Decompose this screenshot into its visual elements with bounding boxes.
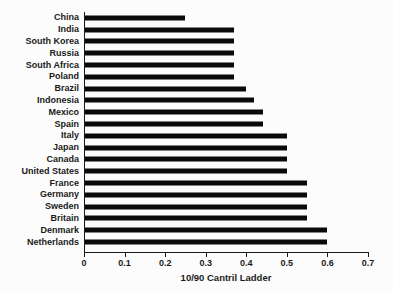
bar-row: South Korea	[0, 36, 368, 48]
category-label: Sweden	[0, 202, 84, 211]
bar-row: France	[0, 177, 368, 189]
bar-track	[84, 201, 368, 213]
x-tick-label: 0.6	[321, 258, 334, 268]
x-axis-title: 10/90 Cantril Ladder	[84, 272, 368, 283]
bar	[84, 110, 263, 115]
category-label: Spain	[0, 120, 84, 129]
bar-track	[84, 24, 368, 36]
category-label: Japan	[0, 143, 84, 152]
category-label: India	[0, 25, 84, 34]
bar-row: United States	[0, 165, 368, 177]
bar-track	[84, 59, 368, 71]
bar-row: Mexico	[0, 106, 368, 118]
bar-track	[84, 213, 368, 225]
bar	[84, 51, 234, 56]
bar-row: India	[0, 24, 368, 36]
bar	[84, 74, 234, 79]
bar-row: South Africa	[0, 59, 368, 71]
bar-row: Netherlands	[0, 236, 368, 248]
x-tick-label: 0.2	[159, 258, 172, 268]
bar-track	[84, 177, 368, 189]
bar-track	[84, 36, 368, 48]
bar	[84, 228, 327, 233]
bar	[84, 181, 307, 186]
bar-row: Poland	[0, 71, 368, 83]
bar-row: Indonesia	[0, 95, 368, 107]
bar-row: Brazil	[0, 83, 368, 95]
bar-track	[84, 224, 368, 236]
bar	[84, 169, 287, 174]
x-tick-mark	[327, 253, 328, 257]
category-label: South Africa	[0, 61, 84, 70]
bar-row: Spain	[0, 118, 368, 130]
category-label: Netherlands	[0, 238, 84, 247]
bar	[84, 204, 307, 209]
bar	[84, 192, 307, 197]
y-axis-line	[84, 12, 85, 252]
bar-track	[84, 71, 368, 83]
bar	[84, 122, 263, 127]
bar-track	[84, 83, 368, 95]
x-tick-label: 0.4	[240, 258, 253, 268]
bar-track	[84, 236, 368, 248]
bar	[84, 133, 287, 138]
bar	[84, 86, 246, 91]
bar-track	[84, 118, 368, 130]
bar	[84, 240, 327, 245]
bar	[84, 216, 307, 221]
bar-track	[84, 47, 368, 59]
category-label: France	[0, 179, 84, 188]
bar-row: Russia	[0, 47, 368, 59]
x-tick-label: 0.1	[118, 258, 131, 268]
x-tick-label: 0.5	[281, 258, 294, 268]
bar	[84, 145, 287, 150]
bar	[84, 98, 254, 103]
bar-row: Denmark	[0, 224, 368, 236]
bar-track	[84, 12, 368, 24]
bar-row: China	[0, 12, 368, 24]
bar-track	[84, 154, 368, 166]
category-label: South Korea	[0, 37, 84, 46]
bar-chart-figure: ChinaIndiaSouth KoreaRussiaSouth AfricaP…	[0, 0, 393, 293]
bar	[84, 27, 234, 32]
bar-row: Britain	[0, 213, 368, 225]
category-label: Mexico	[0, 108, 84, 117]
bar-row: Sweden	[0, 201, 368, 213]
x-tick-mark	[165, 253, 166, 257]
category-label: Poland	[0, 72, 84, 81]
category-label: Brazil	[0, 84, 84, 93]
bar-track	[84, 189, 368, 201]
category-label: China	[0, 13, 84, 22]
bar-track	[84, 142, 368, 154]
bar-row: Germany	[0, 189, 368, 201]
category-label: Germany	[0, 190, 84, 199]
x-tick-mark	[206, 253, 207, 257]
bar-track	[84, 130, 368, 142]
bar-row: Canada	[0, 154, 368, 166]
x-tick-mark	[125, 253, 126, 257]
category-label: Britain	[0, 214, 84, 223]
bar	[84, 63, 234, 68]
bar-track	[84, 165, 368, 177]
x-axis-ticks: 00.10.20.30.40.50.60.7	[84, 252, 368, 272]
x-tick-mark	[84, 253, 85, 257]
category-label: Indonesia	[0, 96, 84, 105]
bar	[84, 157, 287, 162]
category-label: Denmark	[0, 226, 84, 235]
x-tick-label: 0	[81, 258, 86, 268]
x-tick-label: 0.7	[362, 258, 375, 268]
bar-rows: ChinaIndiaSouth KoreaRussiaSouth AfricaP…	[0, 12, 368, 248]
bar-row: Italy	[0, 130, 368, 142]
x-tick-mark	[287, 253, 288, 257]
bar-row: Japan	[0, 142, 368, 154]
bar-track	[84, 95, 368, 107]
category-label: United States	[0, 167, 84, 176]
bar-track	[84, 106, 368, 118]
category-label: Canada	[0, 155, 84, 164]
bar	[84, 39, 234, 44]
bar	[84, 15, 185, 20]
category-label: Russia	[0, 49, 84, 58]
x-tick-mark	[368, 253, 369, 257]
x-tick-label: 0.3	[199, 258, 212, 268]
x-tick-mark	[246, 253, 247, 257]
